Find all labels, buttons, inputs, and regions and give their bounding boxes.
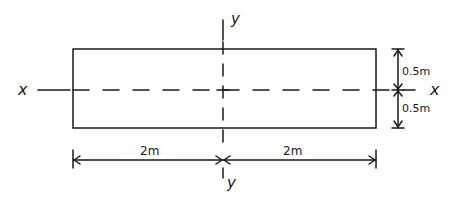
x-axis-label-right: x	[429, 80, 440, 99]
top-half-height-label: 0.5m	[402, 65, 430, 78]
section-rectangle	[73, 49, 376, 128]
right-width-label: 2m	[283, 144, 302, 158]
bottom-half-height-label: 0.5m	[402, 102, 430, 115]
x-axis-label-left: x	[17, 80, 28, 99]
left-width-label: 2m	[140, 144, 159, 158]
y-axis-label-bottom: y	[226, 174, 237, 192]
y-axis-label-top: y	[230, 10, 241, 28]
cross-section-diagram: x x y y 0.5m 0.5m 2m 2m	[0, 0, 452, 210]
